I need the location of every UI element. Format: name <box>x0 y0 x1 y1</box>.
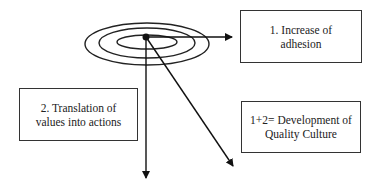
box2-line1: 2. Translation of <box>36 101 122 115</box>
box1-line1: 1. Increase of <box>270 23 332 37</box>
box1-line2: adhesion <box>270 37 332 51</box>
box-quality-culture: 1+2= Development of Quality Culture <box>241 101 361 153</box>
box-increase-of-adhesion: 1. Increase of adhesion <box>240 10 362 63</box>
outer-ring <box>85 23 209 65</box>
target-rings <box>85 23 209 65</box>
box3-line1: 1+2= Development of <box>250 113 352 127</box>
arrow-diagonal <box>146 37 233 166</box>
box3-line2: Quality Culture <box>250 127 352 141</box>
middle-ring <box>99 28 195 58</box>
box2-line2: values into actions <box>36 115 122 129</box>
box-translation-of-values: 2. Translation of values into actions <box>19 88 138 141</box>
